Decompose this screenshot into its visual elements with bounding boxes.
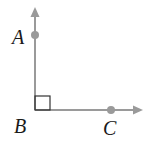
label-a: A — [10, 26, 25, 48]
arrowhead-up-icon — [31, 7, 40, 17]
point-a — [31, 31, 39, 39]
label-b: B — [14, 115, 26, 137]
arrowhead-right-icon — [133, 106, 143, 115]
label-c: C — [103, 117, 117, 139]
right-angle-diagram: A B C — [0, 0, 151, 143]
right-angle-marker — [35, 96, 50, 110]
point-c — [107, 106, 115, 114]
